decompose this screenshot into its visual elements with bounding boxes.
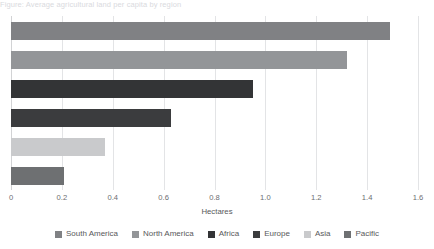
gridline — [316, 16, 317, 190]
x-tick-label: 0.8 — [209, 192, 220, 204]
legend-swatch-icon — [304, 231, 311, 238]
bar-asia[interactable] — [11, 138, 105, 156]
bar-row — [11, 22, 418, 40]
legend-item-label: Europe — [264, 229, 290, 239]
legend-item-label: North America — [143, 229, 194, 239]
legend-swatch-icon — [253, 231, 260, 238]
legend-item-europe[interactable]: Europe — [253, 229, 290, 239]
x-axis-tick-labels: 00.20.40.60.81.01.21.41.6 — [11, 192, 418, 206]
gridline — [367, 16, 368, 190]
gridline — [164, 16, 165, 190]
x-tick-label: 0.4 — [107, 192, 118, 204]
gridline — [215, 16, 216, 190]
bar-row — [11, 138, 418, 156]
x-tick-label: 0.6 — [158, 192, 169, 204]
gridline — [11, 16, 12, 190]
x-tick-label: 1.2 — [311, 192, 322, 204]
legend-item-label: Africa — [219, 229, 239, 239]
legend-item-label: South America — [66, 229, 118, 239]
plot-area — [11, 16, 418, 190]
x-tick-label: 1.4 — [362, 192, 373, 204]
bar-row — [11, 167, 418, 185]
bar-africa[interactable] — [11, 80, 253, 98]
bar-row — [11, 109, 418, 127]
bar-row — [11, 80, 418, 98]
gridline — [62, 16, 63, 190]
x-tick-label: 1.6 — [413, 192, 424, 204]
bar-europe[interactable] — [11, 109, 171, 127]
legend-item-north-america[interactable]: North America — [132, 229, 194, 239]
bar-row — [11, 51, 418, 69]
legend-item-pacific[interactable]: Pacific — [344, 229, 379, 239]
bar-south-america[interactable] — [11, 22, 390, 40]
legend-item-south-america[interactable]: South America — [55, 229, 118, 239]
figure-caption: Figure: Average agricultural land per ca… — [0, 0, 434, 9]
x-tick-label: 1.0 — [260, 192, 271, 204]
legend-item-asia[interactable]: Asia — [304, 229, 331, 239]
gridline — [113, 16, 114, 190]
x-axis-title: Hectares — [0, 206, 434, 217]
legend-swatch-icon — [55, 231, 62, 238]
legend-swatch-icon — [132, 231, 139, 238]
gridline — [418, 16, 419, 190]
legend-swatch-icon — [344, 231, 351, 238]
legend-item-label: Asia — [315, 229, 331, 239]
bar-pacific[interactable] — [11, 167, 64, 185]
legend-swatch-icon — [208, 231, 215, 238]
bar-chart-figure: Figure: Average agricultural land per ca… — [0, 0, 434, 249]
bar-north-america[interactable] — [11, 51, 347, 69]
gridline — [265, 16, 266, 190]
x-tick-label: 0.2 — [57, 192, 68, 204]
chart-legend: South AmericaNorth AmericaAfricaEuropeAs… — [0, 229, 434, 239]
legend-item-africa[interactable]: Africa — [208, 229, 239, 239]
legend-item-label: Pacific — [355, 229, 379, 239]
x-tick-label: 0 — [9, 192, 13, 204]
